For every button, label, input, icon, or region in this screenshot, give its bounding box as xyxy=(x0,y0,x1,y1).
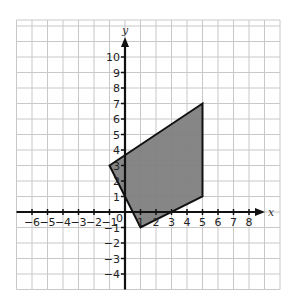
x-axis-label: x xyxy=(268,206,275,219)
y-tick-label: 8 xyxy=(113,82,120,95)
x-tick-label: 6 xyxy=(215,216,222,229)
x-axis-arrow-icon xyxy=(255,208,265,216)
y-axis-label: y xyxy=(121,24,129,37)
x-tick-label: 5 xyxy=(199,216,206,229)
x-tick-label: 3 xyxy=(168,216,175,229)
origin-label: 0 xyxy=(116,212,123,225)
y-tick-label: 6 xyxy=(113,113,120,126)
x-tick-label: −3 xyxy=(70,216,86,229)
x-tick-label: 2 xyxy=(153,216,160,229)
y-tick-label: 9 xyxy=(113,67,120,80)
x-tick-label: −4 xyxy=(55,216,71,229)
y-tick-label: 7 xyxy=(113,98,120,111)
x-tick-label: 8 xyxy=(246,216,253,229)
y-tick-label: 3 xyxy=(113,160,120,173)
x-tick-label: 1 xyxy=(137,216,144,229)
y-tick-label: 4 xyxy=(113,144,120,157)
x-tick-label: −6 xyxy=(24,216,40,229)
y-tick-label: 10 xyxy=(106,51,120,64)
y-tick-label: 2 xyxy=(113,175,120,188)
y-tick-label: −2 xyxy=(104,237,120,250)
y-tick-label: 5 xyxy=(113,129,120,142)
x-tick-label: 4 xyxy=(184,216,191,229)
y-tick-label: −3 xyxy=(104,253,120,266)
y-tick-label: −4 xyxy=(104,268,120,281)
x-tick-label: 7 xyxy=(230,216,237,229)
x-tick-label: −2 xyxy=(86,216,102,229)
y-tick-label: 1 xyxy=(113,191,120,204)
coordinate-plane: −6−5−4−3−2−112345678−4−3−2−112345678910 … xyxy=(0,0,294,306)
x-tick-label: −5 xyxy=(39,216,55,229)
